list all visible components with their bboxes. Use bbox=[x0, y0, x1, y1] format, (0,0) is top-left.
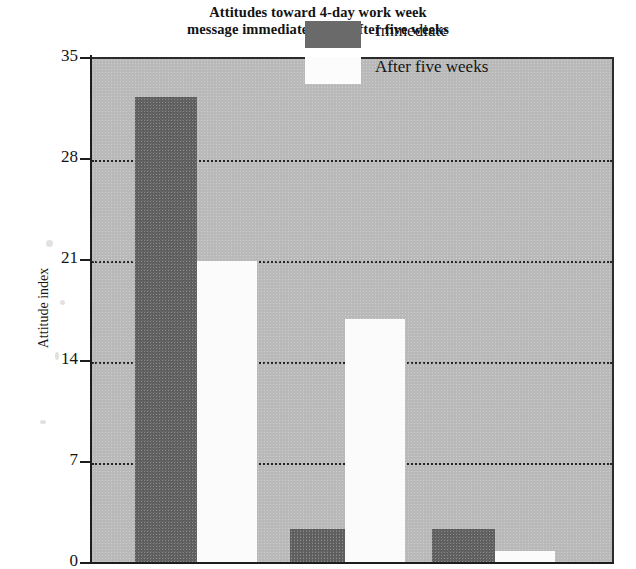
bar-immediate-group-2 bbox=[290, 529, 345, 564]
bar-immediate-group-3 bbox=[432, 529, 495, 564]
legend-label-immediate: Immediate bbox=[375, 21, 448, 41]
y-axis-tick bbox=[80, 57, 92, 59]
legend-swatch-immediate bbox=[305, 21, 361, 48]
bar-immediate-group-1 bbox=[135, 97, 197, 564]
bar-after-five-weeks-group-2 bbox=[345, 319, 405, 564]
legend-swatch-after-five-weeks bbox=[305, 57, 361, 84]
y-axis-tick-label: 28 bbox=[38, 147, 78, 167]
y-axis-tick bbox=[80, 562, 92, 564]
x-axis-line bbox=[90, 562, 614, 564]
y-axis-tick bbox=[80, 259, 92, 261]
y-axis-tick-label: 0 bbox=[38, 551, 78, 569]
y-axis-tick bbox=[80, 158, 92, 160]
y-axis-tick-label: 21 bbox=[38, 248, 78, 268]
scan-artifact bbox=[40, 420, 46, 424]
y-axis-tick bbox=[80, 360, 92, 362]
y-axis-line bbox=[90, 55, 92, 564]
y-axis-tick bbox=[80, 461, 92, 463]
plot-area bbox=[92, 57, 614, 564]
y-axis-tick-label: 7 bbox=[38, 450, 78, 470]
bar-after-five-weeks-group-1 bbox=[197, 261, 257, 564]
y-axis-tick-label: 35 bbox=[38, 46, 78, 66]
legend-label-after-five-weeks: After five weeks bbox=[375, 57, 488, 77]
bar-chart-figure: Attitudes toward 4-day work week message… bbox=[0, 0, 636, 569]
legend-item-after-five-weeks: After five weeks bbox=[305, 55, 520, 89]
y-axis-tick-label: 14 bbox=[38, 349, 78, 369]
chart-legend: Immediate After five weeks bbox=[305, 19, 520, 91]
scan-artifact bbox=[60, 300, 65, 305]
scan-artifact bbox=[46, 240, 53, 247]
legend-item-immediate: Immediate bbox=[305, 19, 520, 53]
